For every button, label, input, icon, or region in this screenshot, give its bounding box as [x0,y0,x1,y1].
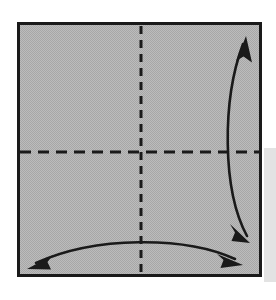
origami-diagram: Origami fold step: square sheet with hor… [0,0,276,300]
drop-shadow [264,148,276,282]
origami-illustration: Origami fold step: square sheet with hor… [0,0,276,300]
